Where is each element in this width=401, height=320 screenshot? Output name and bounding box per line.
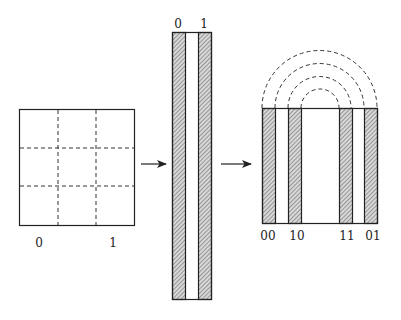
band-11: [340, 109, 353, 224]
rect-label-11: 11: [339, 229, 354, 243]
diagram-canvas: 0 1 0 1 00 10 11 01: [0, 0, 401, 320]
strip-label-0: 0: [174, 17, 182, 31]
rect-label-10: 10: [289, 229, 304, 243]
band-01: [365, 109, 378, 224]
band-10: [289, 109, 302, 224]
strip-band-0: [173, 33, 186, 300]
arc-outer: [262, 50, 377, 108]
fold-arcs: [262, 50, 377, 108]
unit-square: 0 1: [20, 110, 135, 251]
square-label-0: 0: [35, 236, 43, 250]
stretched-strip: 0 1: [173, 17, 212, 300]
strip-label-1: 1: [200, 17, 208, 31]
square-label-1: 1: [109, 236, 117, 250]
rect-label-01: 01: [365, 229, 380, 243]
square-grid-lines: [20, 110, 134, 225]
strip-band-1: [199, 33, 212, 300]
folded-rectangle: 00 10 11 01: [260, 50, 380, 243]
arc-inner: [301, 89, 339, 108]
arc-3: [288, 77, 351, 108]
band-00: [263, 109, 276, 224]
rect-label-00: 00: [260, 229, 275, 243]
